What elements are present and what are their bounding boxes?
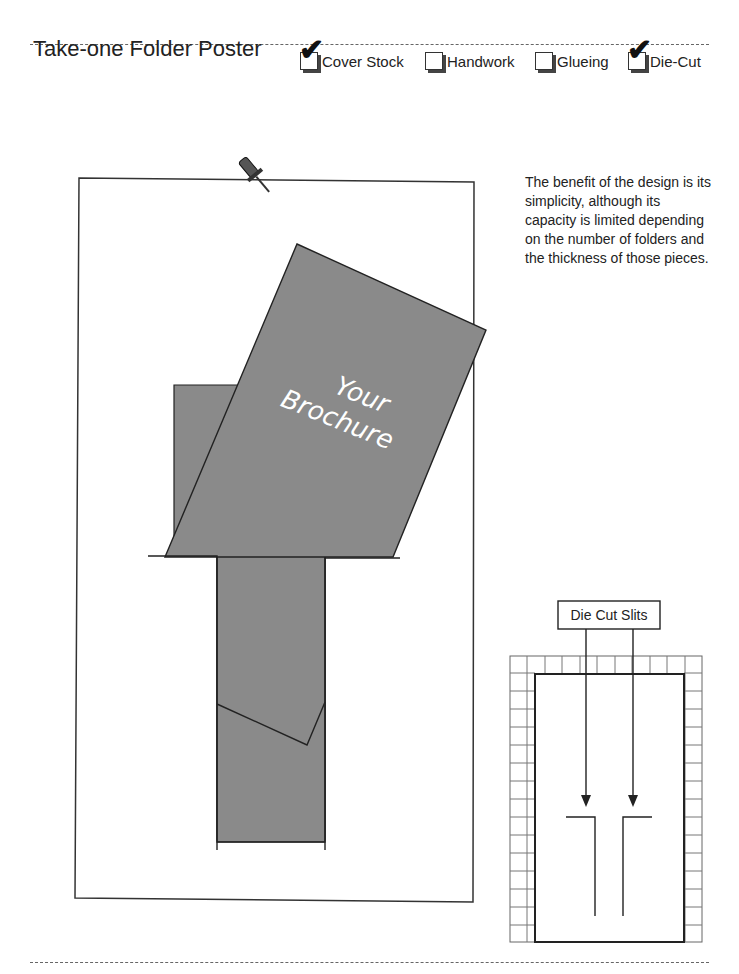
die-cut-label: Die Cut Slits — [570, 607, 647, 623]
pocket-strip — [217, 556, 325, 842]
diagram-canvas: Your Brochure — [0, 0, 739, 974]
die-cut-inset: Die Cut Slits — [510, 601, 702, 942]
